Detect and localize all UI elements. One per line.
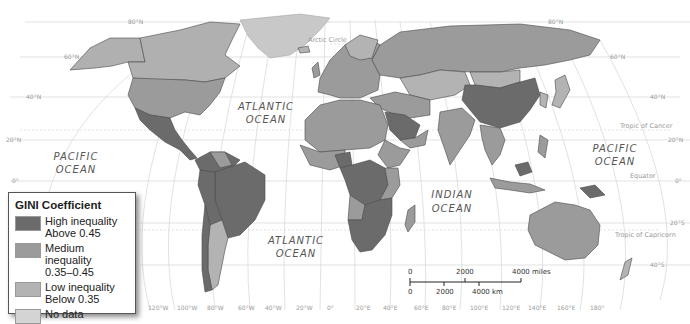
lat-label: 60°N xyxy=(610,53,625,60)
legend-label: Medium inequality xyxy=(45,242,129,266)
lat-label: 20°N xyxy=(6,136,21,143)
lat-label: 0° xyxy=(675,177,682,184)
lat-label: 80°N xyxy=(128,18,143,25)
scale-km-0: 0 xyxy=(408,288,412,296)
russia xyxy=(372,24,600,78)
lon-label: 60°W xyxy=(238,304,255,311)
scale-km-2000: 2000 xyxy=(436,288,454,296)
scale-miles-4000: 4000 miles xyxy=(512,268,551,276)
new-zealand xyxy=(620,258,632,280)
lon-label: 20°W xyxy=(296,304,313,311)
lon-label: 60°E xyxy=(414,304,429,311)
lat-label: 40°N xyxy=(26,93,41,100)
scale-bar: 0 2000 4000 miles 0 2000 4000 km xyxy=(408,268,551,296)
gini-legend: GINI Coefficient High inequality Above 0… xyxy=(8,192,136,314)
legend-swatch-no-data xyxy=(15,309,41,324)
uk xyxy=(312,62,320,78)
legend-label: Low inequality xyxy=(45,281,115,293)
equator-label: Equator xyxy=(630,172,656,180)
legend-item-high: High inequality Above 0.45 xyxy=(15,215,129,239)
lon-label: 100°E xyxy=(470,304,488,311)
lat-label: 20°N xyxy=(668,136,683,143)
lat-label: 80°N xyxy=(548,18,563,25)
legend-title: GINI Coefficient xyxy=(15,199,129,211)
scale-miles-2000: 2000 xyxy=(456,268,474,276)
legend-swatch-high xyxy=(15,216,41,231)
philippines xyxy=(538,135,548,158)
legend-label: No data xyxy=(45,308,84,320)
atlantic-ocean-south-label: ATLANTIC xyxy=(267,235,324,246)
atlantic-ocean-north-label: ATLANTIC xyxy=(237,101,294,112)
atlantic-ocean-north-label: OCEAN xyxy=(246,114,287,125)
lat-label: 20°S xyxy=(670,219,685,226)
tropic-of-capricorn-label: Tropic of Capricorn xyxy=(614,231,676,239)
lon-label: 20°E xyxy=(356,304,371,311)
scale-km-4000: 4000 km xyxy=(472,288,503,296)
lon-label: 80°E xyxy=(442,304,457,311)
argentina xyxy=(208,220,228,290)
lon-label: 180° xyxy=(590,304,604,311)
longitude-labels: 120°W 100°W 80°W 60°W 40°W 20°W 0° 20°E … xyxy=(148,304,604,311)
lat-label: 0° xyxy=(12,177,19,184)
atlantic-ocean-south-label: OCEAN xyxy=(276,248,317,259)
legend-range: Above 0.45 xyxy=(45,227,117,239)
pacific-ocean-west-label: PACIFIC xyxy=(54,151,99,162)
papua-new-guinea xyxy=(580,185,605,198)
lon-label: 120°W xyxy=(148,304,168,311)
pacific-ocean-east-label: OCEAN xyxy=(595,156,636,167)
legend-range: Below 0.35 xyxy=(45,293,115,305)
lon-label: 80°W xyxy=(207,304,224,311)
japan xyxy=(552,75,570,108)
indonesia xyxy=(490,178,545,193)
north-africa xyxy=(305,100,388,152)
indian-ocean-label: OCEAN xyxy=(432,203,473,214)
legend-swatch-medium xyxy=(15,243,41,258)
lon-label: 140°E xyxy=(528,304,546,311)
legend-item-low: Low inequality Below 0.35 xyxy=(15,281,129,305)
lat-label: 40°S xyxy=(650,261,665,268)
lat-label: 40°N xyxy=(650,93,665,100)
canada xyxy=(128,22,240,82)
scale-miles-0: 0 xyxy=(408,268,412,276)
tropic-of-cancer-label: Tropic of Cancer xyxy=(619,122,673,130)
southeast-asia xyxy=(480,125,505,165)
lat-label: 60°N xyxy=(64,53,79,60)
lon-label: 100°W xyxy=(177,304,197,311)
lon-label: 120°E xyxy=(502,304,520,311)
pacific-ocean-west-label: OCEAN xyxy=(56,164,97,175)
legend-label: High inequality xyxy=(45,215,117,227)
indian-ocean-label: INDIAN xyxy=(431,189,472,200)
arctic-circle-label: Arctic Circle xyxy=(308,36,347,44)
lon-label: 40°E xyxy=(383,304,398,311)
korea xyxy=(540,92,548,108)
australia xyxy=(528,202,600,260)
legend-swatch-low xyxy=(15,282,41,297)
pacific-ocean-east-label: PACIFIC xyxy=(593,143,638,154)
lon-label: 160°E xyxy=(557,304,575,311)
madagascar xyxy=(405,205,415,232)
legend-range: 0.35–0.45 xyxy=(45,266,129,278)
legend-item-medium: Medium inequality 0.35–0.45 xyxy=(15,242,129,278)
lon-label: 0° xyxy=(327,304,334,311)
india xyxy=(438,108,475,165)
malaysia xyxy=(515,162,532,176)
lon-label: 40°W xyxy=(265,304,282,311)
legend-item-no-data: No data xyxy=(15,308,129,324)
